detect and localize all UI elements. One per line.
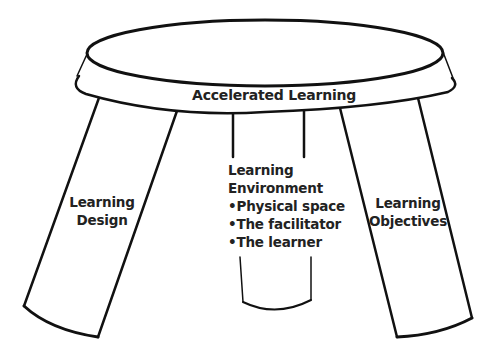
bullet-text: The learner <box>236 234 321 250</box>
leg-label-line: Environment <box>228 179 345 197</box>
leg-label-line: Learning <box>62 193 142 211</box>
seat-top-shape <box>87 20 443 86</box>
stool-title: Accelerated Learning <box>192 86 342 104</box>
leg-label-learning-design: Learning Design <box>62 193 142 229</box>
three-legged-stool-diagram: Accelerated Learning Learning Design Lea… <box>0 0 497 358</box>
leg-label-line: Design <box>62 211 142 229</box>
bullet-item: •The learner <box>228 233 345 251</box>
leg-label-line: Learning <box>228 161 345 179</box>
bullet-text: Physical space <box>236 198 345 214</box>
bullet-item: •Physical space <box>228 197 345 215</box>
leg-label-line: Objectives <box>366 212 450 230</box>
bullet-text: The facilitator <box>236 216 341 232</box>
leg-label-learning-environment: Learning Environment •Physical space •Th… <box>228 161 345 251</box>
leg-label-learning-objectives: Learning Objectives <box>366 194 450 230</box>
leg-label-line: Learning <box>366 194 450 212</box>
bullet-item: •The facilitator <box>228 215 345 233</box>
